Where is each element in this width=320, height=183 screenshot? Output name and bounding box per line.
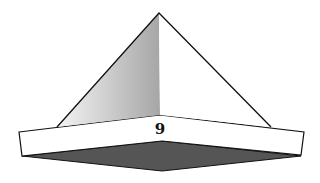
face-number-label: 9 — [155, 120, 165, 138]
pyramid-diagram: 9 — [0, 0, 320, 183]
